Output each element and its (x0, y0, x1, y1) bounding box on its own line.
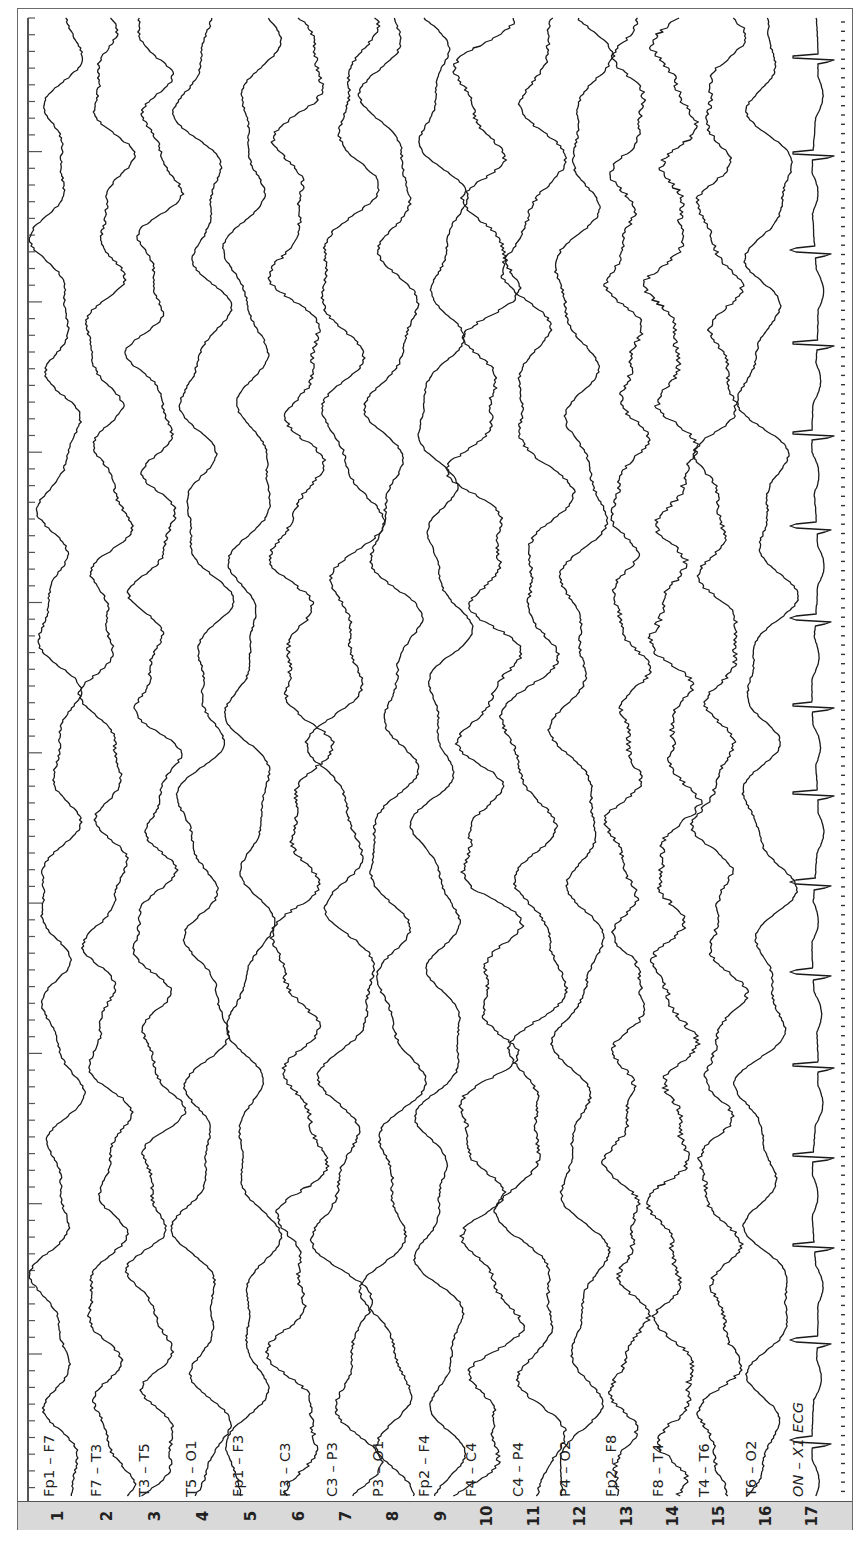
channel-number-strip: 1 2 3 4 5 6 7 8 9 10 11 12 13 14 15 16 1… (18, 1501, 852, 1530)
channel-number-17: 17 (797, 1502, 827, 1530)
trace-ch6 (266, 18, 335, 1496)
channel-label-2: F7 – T3 (88, 1443, 104, 1497)
trace-ch1 (29, 18, 85, 1496)
channel-label-6: F3 – C3 (277, 1442, 293, 1497)
channel-number-1: 1 (43, 1502, 73, 1530)
channel-number-10: 10 (472, 1502, 502, 1530)
channel-label-16: T6 – O2 (743, 1440, 759, 1497)
trace-ch8 (358, 18, 426, 1496)
trace-ch2 (78, 18, 136, 1496)
time-ruler-ticks (28, 18, 42, 1488)
channel-label-4: T5 – O1 (183, 1440, 199, 1497)
channel-number-11: 11 (519, 1502, 549, 1530)
trace-ch5 (223, 18, 282, 1496)
channel-number-14: 14 (658, 1502, 688, 1530)
channel-label-7: C3 – P3 (324, 1442, 340, 1497)
channel-label-8: P3 – O1 (370, 1441, 386, 1497)
trace-ch13 (602, 18, 652, 1496)
trace-ch14 (644, 18, 703, 1496)
channel-number-13: 13 (612, 1502, 642, 1530)
eeg-traces (0, 0, 867, 1550)
channel-label-13: Fp2 – F8 (603, 1435, 619, 1497)
channel-label-3: T3 – T5 (136, 1443, 152, 1497)
channel-number-8: 8 (378, 1502, 408, 1530)
trace-ch3 (125, 18, 186, 1496)
channel-number-7: 7 (331, 1502, 361, 1530)
timing-marks (841, 22, 845, 1491)
trace-ch15 (691, 18, 749, 1496)
channel-label-11: C4 – P4 (510, 1442, 526, 1497)
channel-label-5: Fp1 – F3 (230, 1435, 246, 1497)
channel-number-2: 2 (92, 1502, 122, 1530)
trace-group (29, 18, 834, 1496)
trace-ch17 (790, 18, 834, 1496)
trace-ch4 (171, 18, 234, 1496)
trace-ch11 (494, 18, 575, 1496)
channel-label-15: T4 – T6 (696, 1443, 712, 1497)
channel-number-3: 3 (140, 1502, 170, 1530)
trace-ch7 (305, 18, 385, 1496)
channel-number-12: 12 (565, 1502, 595, 1530)
channel-number-4: 4 (188, 1502, 218, 1530)
channel-label-10: F4 – C4 (463, 1442, 479, 1497)
trace-ch16 (734, 18, 799, 1496)
channel-number-16: 16 (751, 1502, 781, 1530)
trace-ch12 (548, 18, 613, 1496)
channel-label-12: P4 – O2 (557, 1441, 573, 1497)
channel-number-5: 5 (236, 1502, 266, 1530)
channel-number-6: 6 (284, 1502, 314, 1530)
trace-ch10 (446, 18, 525, 1496)
channel-label-1: Fp1 – F7 (41, 1435, 57, 1497)
trace-ch9 (410, 18, 473, 1496)
channel-label-17: ON – X1 ECG (790, 1402, 806, 1497)
channel-number-15: 15 (704, 1502, 734, 1530)
channel-label-9: Fp2 – F4 (416, 1435, 432, 1497)
channel-label-14: F8 – T4 (650, 1443, 666, 1497)
channel-number-9: 9 (426, 1502, 456, 1530)
